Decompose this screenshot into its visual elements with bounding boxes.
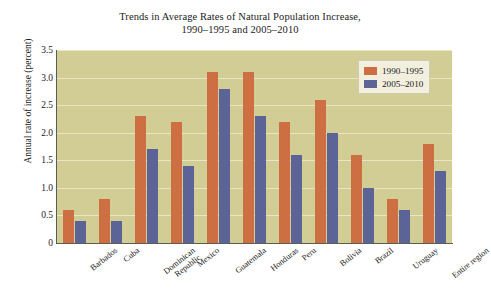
x-axis-tick-label: Entire region [450, 246, 490, 280]
x-axis-tick-label: Mexico [195, 246, 221, 269]
legend-item-label: 2005–2010 [382, 79, 423, 89]
legend: 1990–1995 2005–2010 [358, 60, 430, 94]
legend-item-label: 1990–1995 [382, 66, 423, 76]
legend-item: 1990–1995 [364, 64, 423, 77]
legend-swatch-icon [364, 67, 377, 75]
x-axis-tick-label: Guatemala [233, 246, 267, 275]
legend-item: 2005–2010 [364, 77, 423, 90]
x-axis-tick-label: Honduras [268, 246, 299, 273]
x-axis-tick-label: Brazil [374, 246, 396, 266]
x-axis-tick-label: Uruguay [411, 246, 440, 271]
x-axis-tick-label: Cuba [122, 246, 141, 264]
legend-swatch-icon [364, 80, 377, 88]
x-axis-tick-label: DominicanRepublic [162, 246, 202, 283]
x-axis-tick-label: Peru [301, 246, 319, 263]
x-axis-tick-label: Barbados [89, 246, 119, 273]
x-axis-tick-label: Bolivia [339, 246, 364, 268]
